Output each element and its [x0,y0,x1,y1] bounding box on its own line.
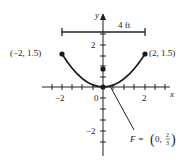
focus-close-paren: ) [171,132,176,148]
focus-point [100,66,105,71]
point-left-label: (−2, 1.5) [10,48,41,58]
y-axis-label: y [94,10,99,20]
x-tick-label-0: 0 [94,93,99,103]
x-tick-label-2: 2 [142,93,147,103]
point-right [142,51,147,56]
x-axis-label: x [169,89,174,99]
focus-denominator: 3 [166,140,169,146]
parabola-diagram: x y −2 0 2 2 −2 4 ft (−2, 1.5) (2, 1.5) … [0,0,192,162]
focus-label: F = ( 0, 2 3 ) [129,132,176,148]
point-right-label: (2, 1.5) [149,48,175,58]
x-tick-label-neg2: −2 [55,93,65,103]
focus-leader-line [110,86,134,130]
y-tick-label-neg2: −2 [86,126,96,136]
focus-numerator: 2 [166,132,169,138]
y-tick-label-2: 2 [91,40,96,50]
vertex-point [100,84,105,89]
svg-text:F =: F = [129,134,144,144]
focus-prefix: F = [129,134,144,144]
point-left [59,51,64,56]
width-marker-label: 4 ft [118,20,131,30]
focus-x-value: 0, [155,134,162,144]
